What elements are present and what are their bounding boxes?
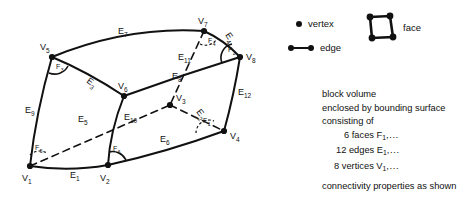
legend-edge-label: edge [320,42,341,53]
edge-E1 [30,165,108,169]
svg-text:4: 4 [236,136,240,143]
svg-text:F: F [35,144,39,151]
vertex-label-V3: V3 [176,93,186,105]
edge-label-E10: E10 [124,112,138,124]
vertex-V1 [27,163,33,169]
vertex-V8 [237,54,243,60]
svg-text:8: 8 [252,57,256,64]
svg-text:5: 5 [40,148,43,154]
svg-text:1: 1 [208,121,211,127]
dot-line-dot-icon [288,44,314,52]
edge-label-E6: E6 [160,134,170,146]
svg-text:11: 11 [184,57,191,64]
face-label-F5: F5 [35,144,43,154]
svg-text:6: 6 [118,149,121,155]
svg-text:5: 5 [84,119,88,126]
notes-line-1: block volume [322,88,476,102]
svg-text:4: 4 [213,41,216,47]
edge-label-E5: E5 [78,114,88,126]
svg-text:8: 8 [178,76,182,83]
vertex-V4 [221,128,227,134]
legend-face-row: face [363,12,421,42]
filled-dot-icon [296,21,302,27]
svg-text:7: 7 [204,21,208,28]
face-label-F6: F6 [113,145,121,155]
svg-text:3: 3 [61,67,64,73]
legend-vertex-label: vertex [308,18,334,29]
vertex-label-V7: V7 [198,16,208,28]
legend-face-label: face [403,22,421,33]
svg-text:7: 7 [124,31,128,38]
legend: vertex edge face [288,6,476,66]
vertex-label-V4: V4 [230,131,240,143]
vertex-V3 [167,102,173,108]
vertex-V6 [121,93,127,99]
edge-E8 [124,57,240,96]
face-label-F3: F3 [56,63,64,73]
diagram-canvas: E1E2E3E4E5E6E7E8E9E10E11E12V1V2V3V4V5V6V… [0,0,290,198]
edge-label-E9: E9 [25,105,35,117]
edge-label-E8: E8 [172,71,182,83]
vertex-V7 [201,28,207,34]
notes-edges-count: 12 edges E1,... [322,144,476,159]
block-topology-diagram: E1E2E3E4E5E6E7E8E9E10E11E12V1V2V3V4V5V6V… [0,0,290,198]
svg-text:5: 5 [46,47,50,54]
notes-line-last: connectivity properties as shown [322,180,476,194]
svg-text:2: 2 [233,50,236,56]
edge-label-E1: E1 [70,170,80,182]
vertex-V5 [49,54,55,60]
svg-text:1: 1 [28,178,32,185]
legend-vertex-row: vertex [296,18,334,29]
face-label-F2: F2 [228,46,236,56]
edge-label-E11: E11 [178,52,191,64]
svg-text:F: F [203,117,207,124]
vertex-label-V2: V2 [100,173,110,185]
svg-text:6: 6 [124,86,128,93]
notes-faces-count: 6 faces F1,... [322,129,476,144]
svg-text:F: F [56,63,60,70]
svg-text:2: 2 [106,178,110,185]
edge-E3 [52,57,124,96]
svg-text:6: 6 [166,139,170,146]
face-label-F1: F1 [203,117,211,127]
svg-text:F: F [208,37,212,44]
svg-text:1: 1 [76,175,80,182]
vertex-label-V8: V8 [246,52,256,64]
svg-text:10: 10 [130,117,138,124]
quadrilateral-face-icon [363,12,397,42]
svg-text:3: 3 [182,98,186,105]
edge-label-E12: E12 [238,87,252,99]
edge-E5 [30,105,170,166]
svg-text:9: 9 [31,110,35,117]
svg-text:F: F [228,46,232,53]
notes-line-3: consisting of [322,115,476,129]
svg-text:F: F [113,145,117,152]
notes-line-2: enclosed by bounding surface [322,102,476,116]
legend-edge-row: edge [288,42,341,53]
vertex-label-V6: V6 [118,81,128,93]
svg-text:12: 12 [244,92,252,99]
notes-block: block volume enclosed by bounding surfac… [322,88,476,196]
notes-vertices-count: 8 vertices V1,... [322,160,476,175]
vertex-label-V1: V1 [22,173,32,185]
face-label-F4: F4 [208,37,216,47]
vertex-label-V5: V5 [40,42,50,54]
vertex-V2 [105,162,111,168]
screenshot-root: E1E2E3E4E5E6E7E8E9E10E11E12V1V2V3V4V5V6V… [0,0,476,198]
